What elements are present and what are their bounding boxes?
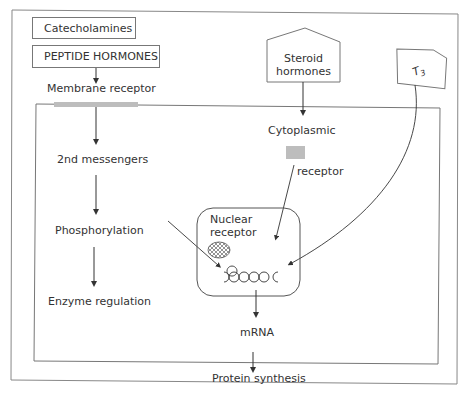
second-messengers-label: 2nd messengers xyxy=(57,153,148,166)
nuclear-receptor-ellipse xyxy=(208,242,230,258)
peptide-hormones-box: PEPTIDE HORMONES xyxy=(32,45,160,68)
dna-coils xyxy=(224,266,278,282)
cytoplasmic-receptor-square xyxy=(286,146,305,159)
steroid-hormones-label: Steroid hormones xyxy=(267,52,340,78)
phosphorylation-label: Phosphorylation xyxy=(55,224,144,237)
membrane-receptor-label: Membrane receptor xyxy=(47,82,156,95)
mrna-label: mRNA xyxy=(240,326,274,339)
nuclear-receptor-label: Nuclear receptor xyxy=(210,213,256,239)
catecholamines-box: Catecholamines xyxy=(32,17,136,39)
protein-synthesis-label: Protein synthesis xyxy=(212,372,306,385)
receptor-label: receptor xyxy=(297,165,343,178)
cytoplasmic-label: Cytoplasmic xyxy=(268,124,336,137)
membrane-receptor-bar xyxy=(54,102,138,107)
catecholamines-label: Catecholamines xyxy=(44,22,132,35)
peptide-hormones-label: PEPTIDE HORMONES xyxy=(44,50,158,63)
enzyme-regulation-label: Enzyme regulation xyxy=(48,295,151,308)
